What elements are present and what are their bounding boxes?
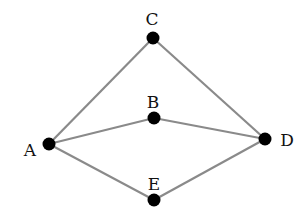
node-label-d: D xyxy=(280,130,294,150)
edge-e-d xyxy=(154,139,265,200)
node-label-b: B xyxy=(147,92,160,112)
node-d xyxy=(259,133,272,146)
node-b xyxy=(148,112,161,125)
node-c xyxy=(147,32,160,45)
node-label-e: E xyxy=(148,174,160,194)
node-label-a: A xyxy=(23,140,37,160)
edge-a-b xyxy=(49,118,154,144)
edge-a-e xyxy=(49,144,154,200)
node-label-c: C xyxy=(145,9,158,29)
edge-c-d xyxy=(153,38,265,139)
graph-diagram: A B C D E xyxy=(0,0,302,209)
node-a xyxy=(43,138,56,151)
edge-b-d xyxy=(154,118,265,139)
node-e xyxy=(148,194,161,207)
edge-a-c xyxy=(49,38,153,144)
